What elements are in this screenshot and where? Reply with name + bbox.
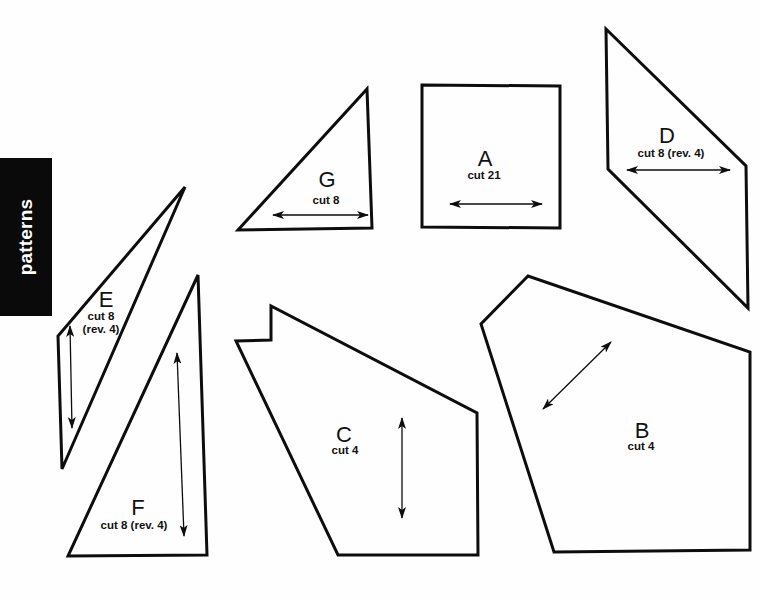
- piece-c-letter: C: [336, 424, 352, 446]
- piece-b-grain-arrow: [543, 342, 611, 409]
- piece-e-letter: E: [99, 289, 114, 311]
- piece-c-cut-count: cut 4: [332, 444, 359, 457]
- piece-d-letter: D: [659, 125, 675, 147]
- pattern-pieces-drawing: [0, 0, 760, 600]
- pattern-page: patterns: [0, 0, 760, 600]
- piece-g-letter: G: [318, 169, 335, 191]
- piece-g-cut-count: cut 8: [313, 194, 340, 207]
- piece-g-outline: [238, 89, 372, 230]
- piece-e-cut-line2: (rev. 4): [83, 323, 120, 336]
- piece-d-cut-count: cut 8 (rev. 4): [638, 147, 705, 160]
- piece-e-grain-arrow: [70, 326, 72, 428]
- piece-b-cut-count: cut 4: [628, 440, 655, 453]
- piece-b-letter: B: [635, 420, 650, 442]
- piece-f-letter: F: [131, 497, 144, 519]
- piece-a-letter: A: [478, 148, 493, 170]
- piece-f-cut-count: cut 8 (rev. 4): [101, 519, 168, 532]
- piece-b-outline: [481, 276, 750, 552]
- piece-c-outline: [236, 306, 478, 555]
- piece-e-cut-count: cut 8 (rev. 4): [83, 310, 120, 336]
- piece-d-outline: [606, 29, 748, 308]
- piece-a-cut-count: cut 21: [467, 169, 500, 182]
- piece-e-cut-line1: cut 8: [83, 310, 120, 323]
- piece-e-outline: [58, 187, 185, 469]
- piece-f-grain-arrow: [177, 353, 184, 536]
